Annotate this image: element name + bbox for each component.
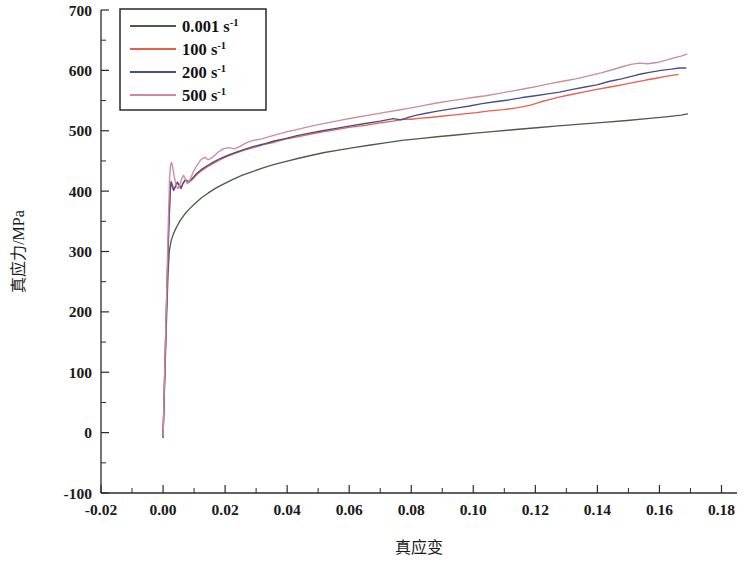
y-axis-title: 真应力/MPa [9,210,27,293]
y-tick-label: 500 [69,122,93,139]
y-tick-label: 700 [69,2,93,19]
x-tick-label: 0.18 [708,501,735,518]
y-tick-label: 100 [69,364,93,381]
x-tick-label: 0.04 [274,501,301,518]
y-tick-label: -100 [64,485,93,502]
x-tick-label: 0.16 [646,501,673,518]
x-tick-label: 0.02 [212,501,239,518]
series-curve-100s [163,75,678,437]
y-tick-label: 200 [69,303,93,320]
x-tick-label: -0.02 [85,501,118,518]
y-tick-label: 600 [69,62,93,79]
x-tick-label: 0.06 [336,501,363,518]
x-tick-label: 0.00 [149,501,176,518]
y-tick-label: 400 [69,183,93,200]
stress-strain-plot: -0.020.000.020.040.060.080.100.120.140.1… [0,0,751,569]
x-tick-label: 0.10 [460,501,487,518]
x-tick-label: 0.14 [584,501,611,518]
chart-figure: -0.020.000.020.040.060.080.100.120.140.1… [0,0,751,569]
series-curve-0.001s [163,114,687,438]
series-curve-500s [163,54,687,436]
y-tick-label: 300 [69,243,93,260]
x-tick-label: 0.08 [398,501,425,518]
x-axis-title: 真应变 [395,538,443,556]
y-tick-label: 0 [84,424,92,441]
series-curve-200s [163,68,686,437]
x-tick-label: 0.12 [522,501,549,518]
